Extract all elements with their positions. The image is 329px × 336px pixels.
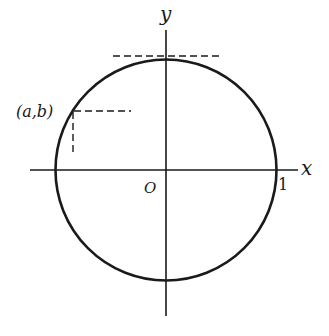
y-axis-label: y xyxy=(159,2,172,26)
x-axis-label: x xyxy=(301,156,312,180)
origin-label: O xyxy=(144,179,156,197)
point-label: (a,b) xyxy=(16,102,53,121)
unit-circle-diagram: y x O 1 (a,b) xyxy=(0,0,329,336)
unit-mark-label: 1 xyxy=(278,175,288,194)
